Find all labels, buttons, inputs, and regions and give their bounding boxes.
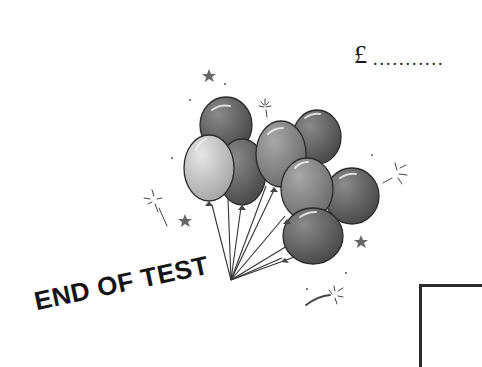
sparkle-icon (383, 163, 407, 184)
sparkle-icon (306, 286, 343, 305)
star-icon (354, 235, 368, 248)
balloon (283, 208, 343, 264)
sparkle-icon (259, 99, 271, 117)
sparkle-icon (144, 190, 167, 226)
answer-box[interactable] (419, 284, 482, 367)
star-icon (178, 214, 192, 227)
balloon (184, 135, 234, 201)
star-icon (202, 69, 216, 82)
